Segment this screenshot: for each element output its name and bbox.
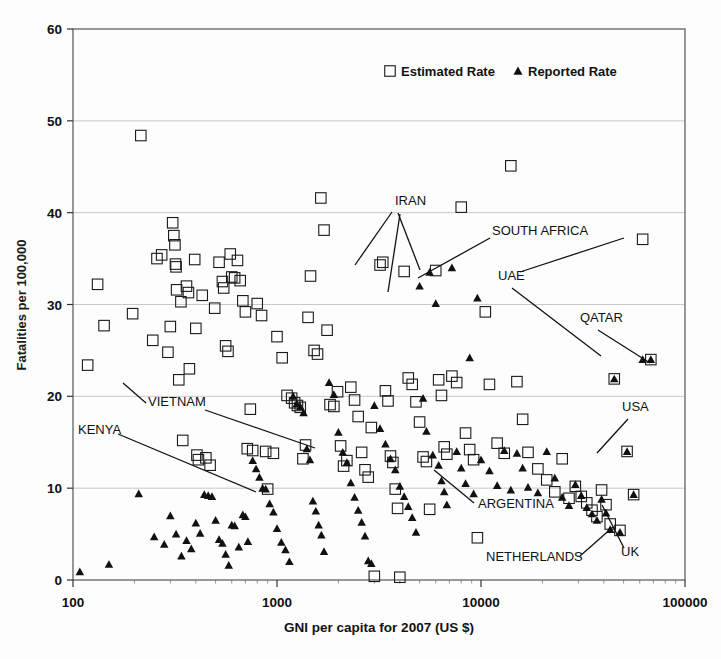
chart-page: 0102030405060 100100010000100000 IRANSOU… [0, 0, 721, 659]
y-tick-label: 60 [47, 22, 62, 37]
annotation-label: KENYA [78, 422, 121, 437]
y-axis-title: Fatalities per 100,000 [14, 240, 29, 371]
annotation-label: SOUTH AFRICA [492, 223, 588, 238]
y-tick-label: 40 [47, 206, 62, 221]
annotation-label: UK [621, 544, 639, 559]
annotation-label: ARGENTINA [478, 496, 554, 511]
x-tick-label: 100000 [662, 595, 707, 610]
y-tick-label: 0 [54, 573, 62, 588]
y-tick-label: 30 [47, 298, 62, 313]
legend-reported-label: Reported Rate [528, 64, 617, 79]
x-tick-label: 100 [62, 595, 85, 610]
annotation-label: QATAR [580, 310, 623, 325]
chart-background [0, 0, 721, 659]
y-tick-label: 20 [47, 389, 62, 404]
annotation-label: VIETNAM [148, 394, 206, 409]
annotation-label: UAE [498, 268, 525, 283]
y-tick-label: 10 [47, 481, 62, 496]
annotation-label: NETHERLANDS [486, 549, 583, 564]
legend-estimated-label: Estimated Rate [401, 64, 495, 79]
x-tick-label: 10000 [462, 595, 500, 610]
annotation-label: USA [622, 399, 649, 414]
y-tick-label: 50 [47, 114, 62, 129]
scatter-chart: 0102030405060 100100010000100000 IRANSOU… [0, 0, 721, 659]
x-axis-title: GNI per capita for 2007 (US $) [284, 620, 474, 635]
annotation-label: IRAN [395, 193, 426, 208]
x-tick-label: 1000 [262, 595, 292, 610]
